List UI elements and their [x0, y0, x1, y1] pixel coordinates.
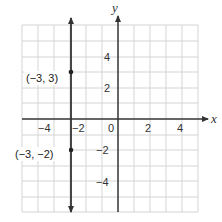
x-tick-4: 4 — [177, 122, 183, 134]
y-tick-4: 4 — [104, 51, 110, 63]
x-tick-origin: 0 — [108, 122, 114, 134]
x-tick-neg4: −4 — [38, 122, 51, 134]
y-tick-neg2: −2 — [96, 144, 109, 156]
point-neg3-neg2 — [69, 148, 74, 153]
point-label-neg3-neg2: (−3, −2) — [15, 148, 54, 160]
x-axis-label: x — [210, 111, 217, 126]
y-tick-neg4: −4 — [96, 176, 109, 188]
y-axis-label: y — [110, 0, 118, 15]
coordinate-plane: x y −4 −2 0 2 4 4 2 −2 −4 (−3, 3) (−3, −… — [0, 0, 222, 222]
x-tick-2: 2 — [145, 122, 151, 134]
x-tick-neg2: −2 — [72, 122, 85, 134]
point-label-neg3-3: (−3, 3) — [26, 72, 58, 84]
y-tick-2: 2 — [104, 82, 110, 94]
point-neg3-3 — [69, 70, 74, 75]
